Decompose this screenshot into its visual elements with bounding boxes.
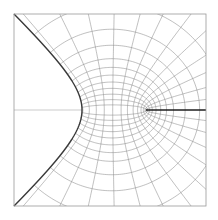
grid-hyperbola — [121, 110, 218, 220]
grid-ellipse — [78, 105, 147, 115]
grid-hyperbola — [0, 110, 96, 220]
grid-hyperbola — [0, 0, 89, 110]
grid-hyperbola — [127, 110, 218, 220]
grid-ellipse — [76, 100, 147, 121]
grid-hyperbola — [127, 0, 218, 110]
grid-ellipse — [72, 88, 153, 131]
grid-hyperbola — [0, 10, 79, 110]
grid-hyperbola — [133, 0, 218, 110]
grid-hyperbola — [0, 0, 96, 110]
grid-hyperbola — [143, 0, 218, 110]
grid-hyperbola — [0, 110, 89, 220]
conformal-grid-figure — [0, 0, 218, 220]
grid-ellipse — [75, 94, 150, 126]
grid-hyperbola — [0, 110, 79, 210]
grid-hyperbola — [143, 110, 218, 220]
grid-hyperbola — [121, 0, 218, 110]
grid-hyperbola — [113, 110, 121, 220]
grid-hyperbola — [133, 110, 218, 220]
grid-hyperbola — [0, 0, 83, 110]
grid-hyperbola — [113, 0, 121, 110]
grid-hyperbola — [0, 110, 83, 220]
